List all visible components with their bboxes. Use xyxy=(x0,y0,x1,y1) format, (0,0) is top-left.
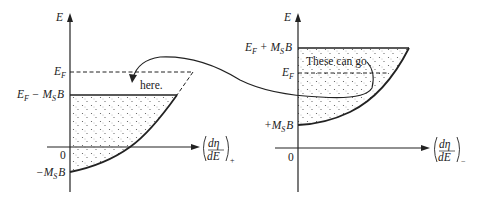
left-y-axis-arrow-icon xyxy=(67,13,73,22)
right-fermi-label: EF xyxy=(281,66,294,81)
diagram-svg: E EF EF − MSB 0 −MSB dη dE + here. E EF … xyxy=(0,0,481,202)
left-panel: E EF EF − MSB 0 −MSB dη dE + here. xyxy=(16,11,235,192)
here-annotation: here. xyxy=(140,79,163,91)
right-y-axis-label: E xyxy=(283,11,291,23)
right-top-level-label: EF + MSB xyxy=(244,41,292,56)
svg-text:dη: dη xyxy=(439,138,451,151)
left-x-axis-label: dη dE + xyxy=(204,136,236,165)
left-filled-states xyxy=(70,95,176,172)
density-of-states-diagram: E EF EF − MSB 0 −MSB dη dE + here. E EF … xyxy=(0,0,481,202)
right-bottom-level-label: +MSB xyxy=(264,119,293,134)
svg-text:dE: dE xyxy=(438,151,451,163)
right-zero-label: 0 xyxy=(288,151,294,163)
left-y-axis-label: E xyxy=(55,11,63,23)
right-x-axis-label: dη dE − xyxy=(435,137,467,166)
right-panel: E EF + MSB EF +MSB 0 dη dE − These can g… xyxy=(244,11,466,192)
these-can-go-annotation: These can go xyxy=(306,55,367,68)
left-fermi-label: EF xyxy=(53,65,66,80)
transfer-arrowhead-icon xyxy=(129,74,137,83)
svg-text:+: + xyxy=(230,156,235,165)
svg-text:dη: dη xyxy=(208,137,220,150)
left-upper-level-label: EF − MSB xyxy=(16,88,64,103)
left-bottom-level-label: −MSB xyxy=(36,166,65,181)
svg-text:−: − xyxy=(461,157,466,166)
left-x-axis-arrow-icon xyxy=(191,144,200,150)
left-zero-label: 0 xyxy=(60,149,66,161)
left-slant-dashed-line xyxy=(177,72,193,95)
right-y-axis-arrow-icon xyxy=(295,13,301,22)
svg-text:dE: dE xyxy=(207,150,220,162)
right-x-axis-arrow-icon xyxy=(421,145,430,151)
